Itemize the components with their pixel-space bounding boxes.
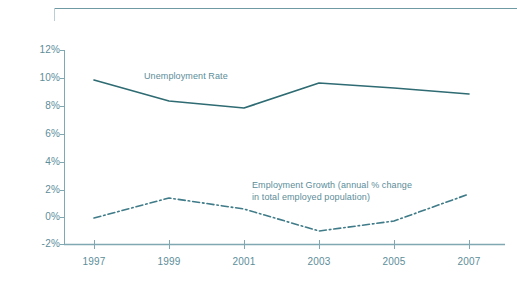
series-label-employment-growth: Employment Growth (annual % change in to…	[252, 179, 412, 203]
x-axis-labels: 1997 1999 2001 2003 2005 2007	[0, 0, 517, 289]
x-tick-label-2007: 2007	[446, 256, 492, 267]
x-tick-label-2005: 2005	[371, 256, 417, 267]
x-tick-label-2001: 2001	[221, 256, 267, 267]
x-tick-label-1997: 1997	[71, 256, 117, 267]
x-tick-label-1999: 1999	[146, 256, 192, 267]
x-tick-label-2003: 2003	[296, 256, 342, 267]
chart-page: 12% 10% 8% 6% 4% 2% 0% -2% 1997 1999 200…	[0, 0, 517, 289]
series-label-unemployment-rate: Unemployment Rate	[144, 70, 228, 82]
